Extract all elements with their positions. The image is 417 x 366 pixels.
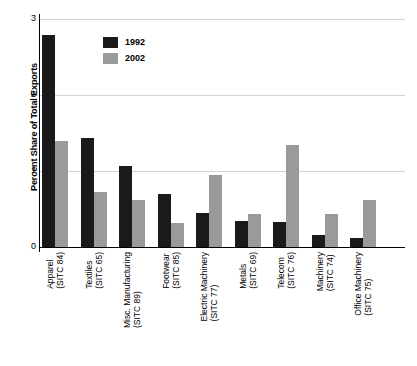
y-axis-tick-labels: 0123: [10, 0, 36, 366]
bar: [325, 214, 338, 247]
bar: [55, 141, 68, 247]
bar: [209, 175, 222, 247]
bar: [132, 200, 145, 247]
x-axis-label: Apparel(SITC 84): [45, 252, 65, 289]
bar: [235, 221, 248, 247]
bar: [363, 200, 376, 247]
x-axis-label-line: Footwear: [161, 252, 171, 289]
x-axis-line: [39, 247, 405, 248]
bar: [350, 238, 363, 247]
bar: [312, 235, 325, 247]
x-axis-label-line: (SITC 75): [363, 252, 373, 316]
x-axis-label: Office Machinery(SITC 75): [353, 252, 373, 316]
bar: [81, 138, 94, 247]
x-axis-label-line: (SITC 89): [132, 252, 142, 328]
x-axis-label-line: (SITC 85): [171, 252, 181, 289]
bar: [196, 213, 209, 247]
bar-group: [42, 19, 68, 247]
x-axis-label-line: Misc. Manufacturing: [122, 252, 132, 328]
bar-group: [235, 19, 261, 247]
legend-item: 1992: [103, 34, 145, 50]
bar: [158, 194, 171, 247]
bar: [248, 214, 261, 247]
chart-legend: 19922002: [103, 34, 145, 66]
x-axis-label: Telecom(SITC 76): [276, 252, 296, 289]
x-axis-label: Footwear(SITC 85): [161, 252, 181, 289]
y-tick-label-1: 1: [14, 166, 36, 175]
x-axis-label-line: (SITC 76): [286, 252, 296, 289]
x-axis-label-line: Apparel: [45, 252, 55, 289]
x-axis-label-line: Electric Machinery: [199, 252, 209, 321]
y-tick-label-3: 3: [14, 14, 36, 23]
bar-group: [196, 19, 222, 247]
x-axis-label: Misc. Manufacturing(SITC 89): [122, 252, 142, 328]
bar-group: [312, 19, 338, 247]
x-axis-label-line: (SITC 77): [209, 252, 219, 321]
x-axis-label-line: Telecom: [276, 252, 286, 289]
bar: [119, 166, 132, 247]
y-tick-label-2: 2: [14, 90, 36, 99]
legend-label: 1992: [125, 37, 145, 47]
legend-swatch-icon: [103, 37, 118, 48]
x-axis-label-line: (SITC 69): [248, 252, 258, 289]
bar-chart: Percent Share of Total Exports 0123 1992…: [0, 0, 417, 366]
legend-label: 2002: [125, 53, 145, 63]
y-tick-label-0: 0: [14, 242, 36, 251]
x-axis-label: Textiles(SITC 65): [84, 252, 104, 289]
bar-group: [158, 19, 184, 247]
bar: [273, 222, 286, 247]
plot-area: [40, 19, 405, 247]
x-axis-label-line: Textiles: [84, 252, 94, 289]
x-axis-label-line: (SITC 74): [325, 252, 335, 291]
bar: [286, 145, 299, 247]
x-axis-label: Machinery(SITC 74): [315, 252, 335, 291]
x-axis-label-line: Machinery: [315, 252, 325, 291]
bar: [42, 35, 55, 247]
bar: [94, 192, 107, 247]
x-axis-label-line: Office Machinery: [353, 252, 363, 316]
bar-group: [350, 19, 376, 247]
bar-group: [273, 19, 299, 247]
x-axis-label-line: (SITC 84): [55, 252, 65, 289]
x-axis-label: Electric Machinery(SITC 77): [199, 252, 219, 321]
x-axis-label: Metals(SITC 69): [238, 252, 258, 289]
x-axis-label-line: Metals: [238, 252, 248, 289]
bar: [171, 223, 184, 247]
legend-item: 2002: [103, 50, 145, 66]
legend-swatch-icon: [103, 53, 118, 64]
x-axis-label-line: (SITC 65): [94, 252, 104, 289]
